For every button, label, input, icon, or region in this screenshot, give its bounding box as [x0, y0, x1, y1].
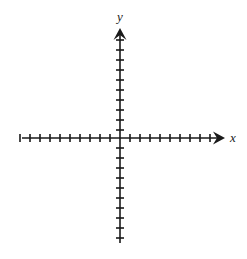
x-axis: [20, 132, 225, 145]
y-axis-label: y: [117, 10, 123, 23]
x-axis-label: x: [230, 131, 236, 144]
axes-svg: [0, 0, 247, 259]
coordinate-plane-figure: y x: [0, 0, 247, 259]
y-axis: [114, 28, 127, 243]
